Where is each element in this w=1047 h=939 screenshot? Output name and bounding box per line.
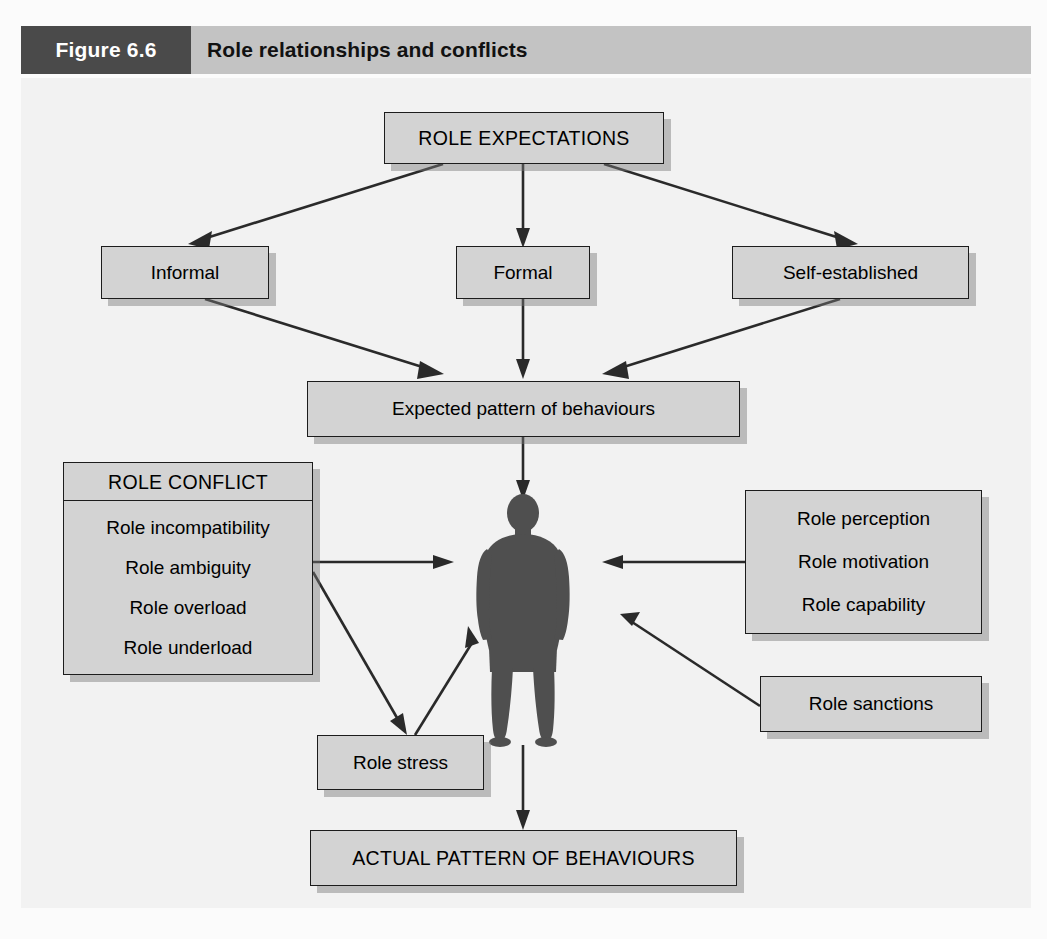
node-self-established[interactable]: Self-established: [732, 246, 969, 299]
node-self-established-label: Self-established: [783, 261, 918, 285]
figure-page: Figure 6.6 Role relationships and confli…: [0, 0, 1047, 939]
node-expected-pattern-label: Expected pattern of behaviours: [392, 397, 655, 421]
figure-number-tag: Figure 6.6: [21, 26, 191, 74]
figure-title: Role relationships and conflicts: [207, 26, 528, 74]
node-formal[interactable]: Formal: [456, 246, 590, 299]
node-formal-label: Formal: [493, 261, 552, 285]
node-actual-pattern-of-behaviours[interactable]: ACTUAL PATTERN OF BEHAVIOURS: [310, 830, 737, 886]
node-role-attributes[interactable]: Role perception Role motivation Role cap…: [745, 490, 982, 634]
node-role-sanctions[interactable]: Role sanctions: [760, 676, 982, 732]
list-item: Role perception: [746, 504, 981, 534]
node-expected-pattern-of-behaviours[interactable]: Expected pattern of behaviours: [307, 381, 740, 437]
node-role-conflict[interactable]: ROLE CONFLICT Role incompatibility Role …: [63, 462, 313, 675]
list-item: Role overload: [64, 593, 312, 623]
node-informal-label: Informal: [151, 261, 220, 285]
list-item: Role motivation: [746, 547, 981, 577]
node-role-attributes-items: Role perception Role motivation Role cap…: [746, 491, 981, 633]
node-role-expectations-label: ROLE EXPECTATIONS: [418, 126, 629, 150]
node-actual-pattern-label: ACTUAL PATTERN OF BEHAVIOURS: [352, 846, 694, 870]
node-role-sanctions-label: Role sanctions: [809, 692, 934, 716]
node-role-stress-label: Role stress: [353, 751, 448, 775]
node-role-conflict-header: ROLE CONFLICT: [64, 463, 312, 501]
list-item: Role ambiguity: [64, 553, 312, 583]
list-item: Role incompatibility: [64, 513, 312, 543]
node-role-conflict-items: Role incompatibility Role ambiguity Role…: [64, 501, 312, 674]
list-item: Role capability: [746, 590, 981, 620]
list-item: Role underload: [64, 633, 312, 663]
node-role-expectations[interactable]: ROLE EXPECTATIONS: [384, 112, 664, 164]
node-role-stress[interactable]: Role stress: [317, 735, 484, 790]
node-informal[interactable]: Informal: [101, 246, 269, 299]
